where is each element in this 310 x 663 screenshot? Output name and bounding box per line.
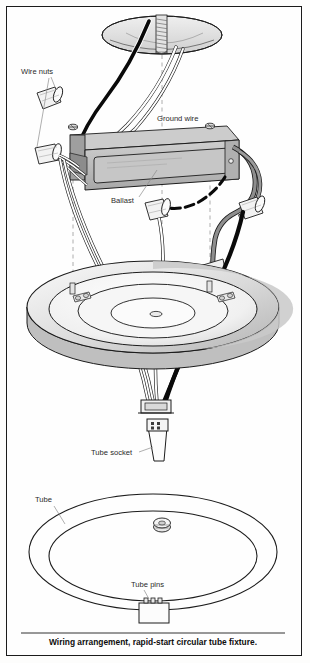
ground-wire-label: Ground wire (157, 114, 198, 123)
tube-label: Tube (35, 495, 52, 504)
label-tube-pins: Tube pins (131, 580, 164, 599)
label-wire-nuts: Wire nuts (21, 67, 55, 147)
pan-post-right (207, 281, 212, 292)
wire-nuts-label: Wire nuts (21, 67, 53, 76)
wire-nut-center (145, 198, 172, 220)
circular-fixture-pan (27, 261, 293, 369)
socket-mount (138, 400, 174, 413)
center-mounting-nut (154, 518, 171, 532)
figure-border: Wire nuts Ground wire Ballast Tube socke… (6, 6, 302, 656)
pan-post-left (70, 283, 75, 294)
fluorescent-ballast (68, 123, 239, 190)
circular-fluorescent-tube (29, 494, 277, 623)
label-tube-socket: Tube socket (91, 447, 153, 457)
threaded-mounting-stud (156, 15, 167, 54)
tube-socket-label: Tube socket (91, 448, 133, 457)
ceiling-outlet-box (102, 15, 222, 54)
figure-caption: Wiring arrangement, rapid-start circular… (49, 637, 257, 647)
tube-socket (147, 419, 168, 461)
ground-screw-left (68, 124, 77, 130)
wiring-diagram: Wire nuts Ground wire Ballast Tube socke… (7, 7, 299, 653)
label-ground-wire: Ground wire (157, 114, 198, 123)
wire-nut-upper-left (37, 86, 64, 109)
tube-pins-label: Tube pins (131, 580, 164, 589)
figure-page: Wire nuts Ground wire Ballast Tube socke… (0, 0, 310, 663)
ballast-label: Ballast (111, 196, 135, 205)
tube-pin-connector (139, 598, 169, 623)
ground-screw-right (205, 123, 214, 129)
